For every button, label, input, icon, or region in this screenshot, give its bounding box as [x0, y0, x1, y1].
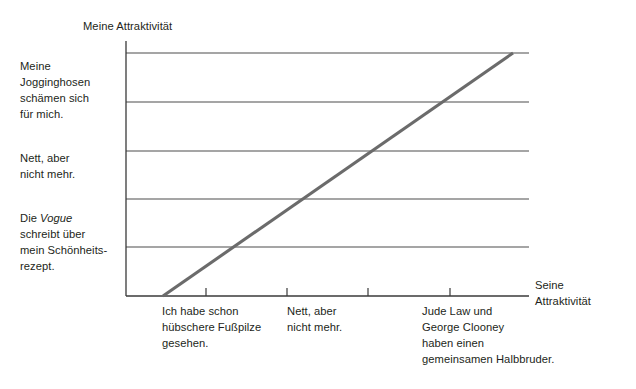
- x-tick-label-1: Ich habe schon hübschere Fußpilze gesehe…: [162, 303, 261, 351]
- y-tick-label-middle: Nett, aber nicht mehr.: [20, 150, 75, 182]
- y-tick-label-bottom: Die Vogue schreibt über mein Schönheits-…: [20, 210, 107, 274]
- italic-word: Vogue: [40, 212, 72, 224]
- x-tick-label-2: Nett, aber nicht mehr.: [287, 303, 342, 335]
- data-line-series-1: [163, 53, 513, 296]
- y-tick-label-bottom-text: Die Vogue schreibt über mein Schönheits-…: [20, 212, 107, 272]
- x-tick-label-3: Jude Law und George Clooney haben einen …: [422, 303, 554, 367]
- y-tick-label-top: Meine Jogginghosen schämen sich für mich…: [20, 58, 90, 122]
- chart-figure: Meine Attraktivität Seine Attraktivität …: [0, 0, 636, 389]
- y-axis-title: Meine Attraktivität: [83, 19, 172, 34]
